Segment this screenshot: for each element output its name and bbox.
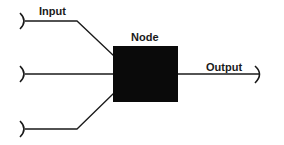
input-line-3 — [25, 93, 114, 129]
node-diagram: Input Node Output — [0, 0, 284, 145]
input-connector-3-icon — [20, 121, 24, 137]
node-label: Node — [131, 31, 159, 43]
input-connector-2-icon — [20, 66, 24, 82]
input-line-1 — [25, 21, 114, 56]
input-connector-1-icon — [20, 13, 24, 29]
input-label: Input — [39, 5, 66, 17]
node-box — [113, 46, 178, 102]
output-label: Output — [206, 61, 242, 73]
